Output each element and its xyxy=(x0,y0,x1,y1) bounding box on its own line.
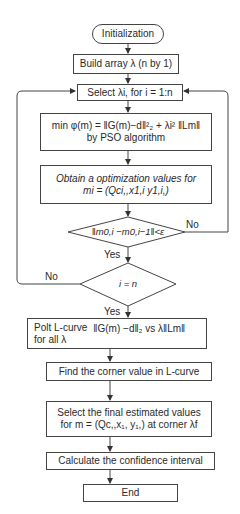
build-array-label: Build array λ (n by 1) xyxy=(80,58,172,70)
obtain-values-line2: mi = (Qci,,x1,i y1,i,) xyxy=(83,185,169,197)
minimize-formula: min φ(m) = ‖G(m)−d‖²₂ + λi² ‖Lm‖ xyxy=(52,120,200,132)
select-final-line2: for m = (Qc,,x₁, y₁,) at corner λf xyxy=(60,419,197,431)
obtain-values-node: Obtain a optimization values for mi = (Q… xyxy=(40,165,212,204)
find-corner-label: Find the corner value in L-curve xyxy=(59,366,200,378)
select-final-node: Select the final estimated values for m … xyxy=(46,401,212,437)
end-label: End xyxy=(122,487,140,499)
confidence-interval-label: Calculate the confidence interval xyxy=(58,455,203,467)
iteration-decision-label: i = n xyxy=(108,278,148,289)
minimize-method: by PSO algorithm xyxy=(87,132,165,144)
minimize-node: min φ(m) = ‖G(m)−d‖²₂ + λi² ‖Lm‖ by PSO … xyxy=(40,113,212,151)
initialization-label: Initialization xyxy=(102,28,154,40)
build-array-node: Build array λ (n by 1) xyxy=(73,54,179,74)
plot-lcurve-node: Polt L-curve for all λ ‖G(m) −d‖₂ vs λ‖L… xyxy=(27,318,207,349)
no-label-convergence: No xyxy=(186,219,199,230)
end-node: End xyxy=(83,484,178,502)
convergence-decision-label: ‖m0,i −m0,i−1‖<ε xyxy=(88,226,168,237)
initialization-node: Initialization xyxy=(92,24,164,44)
yes-label-convergence: Yes xyxy=(104,249,120,260)
find-corner-node: Find the corner value in L-curve xyxy=(46,362,212,381)
yes-label-iteration: Yes xyxy=(104,306,120,317)
plot-lcurve-line1: Polt L-curve xyxy=(34,322,87,334)
select-lambda-label: Select λi, for i = 1:n xyxy=(87,87,172,99)
obtain-values-line1: Obtain a optimization values for xyxy=(56,173,196,185)
no-label-iteration: No xyxy=(45,271,58,282)
plot-lcurve-formula: ‖G(m) −d‖₂ vs λ‖Lm‖ xyxy=(93,323,185,335)
select-lambda-node: Select λi, for i = 1:n xyxy=(77,84,183,101)
plot-lcurve-line2: for all λ xyxy=(34,334,66,346)
select-final-line1: Select the final estimated values xyxy=(57,407,200,419)
confidence-interval-node: Calculate the confidence interval xyxy=(46,452,215,470)
